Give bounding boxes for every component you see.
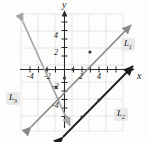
line-label-L1: L1 xyxy=(121,38,135,51)
y-tick-label-neg4: -4 xyxy=(52,101,59,110)
coordinate-plane-figure: y x -4 -2 2 4 4 2 -2 -4 L1 L2 L3 xyxy=(0,0,147,142)
y-tick-label-4: 4 xyxy=(54,31,58,40)
line-label-L2-sub: 2 xyxy=(122,114,125,120)
line-label-L1-sub: 1 xyxy=(129,44,132,50)
y-tick-label-2: 2 xyxy=(54,48,58,57)
x-tick-label-neg2: -2 xyxy=(44,72,51,81)
x-axis-label: x xyxy=(137,70,141,81)
y-tick-label-neg2: -2 xyxy=(52,82,59,91)
y-axis-label: y xyxy=(62,0,66,10)
line-label-L3: L3 xyxy=(6,92,20,105)
line-label-L3-sub: 3 xyxy=(14,98,17,104)
x-tick-label-2: 2 xyxy=(79,72,83,81)
x-tick-label-4: 4 xyxy=(97,72,101,81)
line-label-L2: L2 xyxy=(114,108,128,121)
x-tick-label-neg4: -4 xyxy=(27,72,34,81)
